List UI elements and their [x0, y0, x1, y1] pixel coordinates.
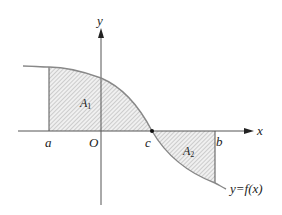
x-axis-label: x	[256, 123, 263, 138]
curve-label: y=f(x)	[228, 181, 263, 196]
area-diagram: y x O a b c A1 A2 y=f(x)	[0, 0, 282, 215]
origin-label: O	[89, 135, 99, 150]
y-axis-arrow-icon	[98, 28, 104, 38]
point-a-label: a	[45, 135, 52, 150]
point-c-label: c	[145, 135, 151, 150]
point-c	[150, 129, 154, 133]
x-axis-arrow-icon	[244, 128, 254, 134]
point-b-label: b	[216, 134, 223, 149]
y-axis-label: y	[95, 13, 103, 28]
